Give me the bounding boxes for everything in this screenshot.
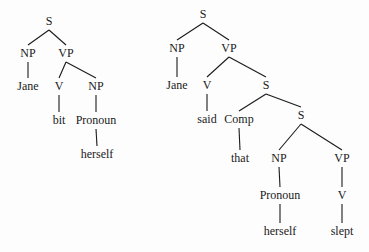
tree-node-label: that (231, 151, 250, 165)
tree-node-label: herself (81, 147, 114, 161)
tree-node-label: V (338, 188, 347, 202)
tree-node-label: S (46, 14, 53, 28)
tree-node-label: said (197, 112, 216, 126)
tree-branch (279, 124, 301, 150)
tree-left: SNPVPJaneVNPbitPronounherself (17, 14, 116, 161)
tree-node-label: S (200, 7, 207, 21)
tree-node-label: NP (271, 151, 287, 165)
tree-branch (96, 129, 97, 146)
tree-node-label: VP (58, 46, 74, 60)
tree-node-label: S (263, 78, 270, 92)
tree-node-label: V (55, 79, 64, 93)
tree-branch (301, 124, 342, 150)
tree-node-label: NP (88, 79, 104, 93)
tree-drawing: SNPVPJaneVNPbitPronounherselfSNPVPJaneVS… (0, 0, 369, 252)
tree-node-label: S (298, 108, 305, 122)
tree-branch (239, 94, 266, 111)
tree-node-label: slept (331, 224, 354, 238)
tree-node-label: Jane (17, 79, 38, 93)
tree-node-label: NP (169, 41, 185, 55)
tree-branch (239, 128, 240, 150)
tree-branch (59, 62, 66, 78)
syntax-tree-diagram: SNPVPJaneVNPbitPronounherselfSNPVPJaneVS… (0, 0, 369, 252)
tree-branch (229, 57, 266, 77)
tree-branch (66, 62, 96, 78)
tree-node-label: Comp (224, 112, 253, 126)
tree-branch (279, 167, 280, 187)
tree-node-label: V (203, 78, 212, 92)
tree-node-label: VP (221, 41, 237, 55)
tree-branch (28, 30, 49, 45)
tree-node-label: NP (20, 46, 36, 60)
tree-branch (177, 23, 203, 40)
tree-branch (203, 23, 229, 40)
tree-node-label: VP (334, 151, 350, 165)
tree-branch (207, 57, 229, 77)
tree-node-label: herself (264, 224, 297, 238)
tree-node-label: Pronoun (260, 188, 301, 202)
tree-node-label: bit (53, 113, 66, 127)
tree-branch (266, 94, 301, 107)
tree-right: SNPVPJaneVSsaidCompSthatNPVPPronounVhers… (166, 7, 354, 238)
tree-node-label: Pronoun (76, 113, 117, 127)
tree-node-label: Jane (166, 78, 187, 92)
tree-branch (49, 30, 66, 45)
